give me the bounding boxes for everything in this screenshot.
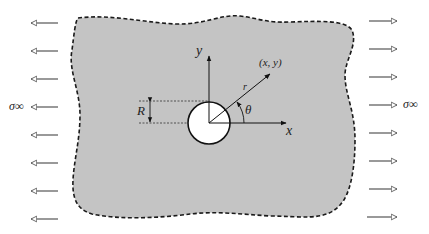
hole-radius-label: R <box>137 104 145 117</box>
point-label: (x, y) <box>259 57 282 68</box>
theta-label: θ <box>245 103 251 116</box>
x-axis-label: x <box>286 124 292 138</box>
y-axis-label: y <box>196 44 202 58</box>
sigma-right-label: σ∞ <box>403 98 417 110</box>
diagram-canvas <box>0 0 429 234</box>
r-label: r <box>243 82 247 92</box>
left-load-arrows <box>31 23 58 219</box>
right-load-arrows <box>367 21 397 217</box>
sigma-left-label: σ∞ <box>9 100 23 112</box>
